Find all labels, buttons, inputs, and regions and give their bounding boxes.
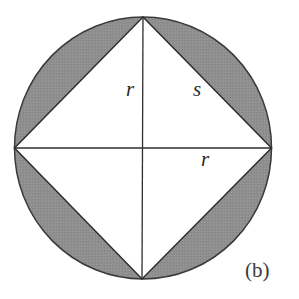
figure-caption: (b): [245, 258, 270, 282]
vertical-radius-label: r: [126, 77, 135, 101]
inscribed-square-diagram: r s r (b): [0, 0, 299, 299]
horizontal-radius-label: r: [201, 147, 210, 171]
side-label: s: [193, 77, 201, 101]
